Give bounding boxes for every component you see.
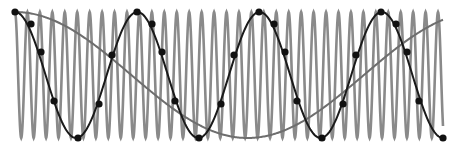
diagram-canvas xyxy=(0,0,455,151)
sample-point-dot xyxy=(318,134,325,141)
sample-point-dot xyxy=(293,97,300,104)
sample-point-dot xyxy=(108,51,115,58)
sample-point-dot xyxy=(255,8,262,15)
sample-point-dot xyxy=(217,100,224,107)
sample-point-dot xyxy=(37,48,44,55)
sample-point-dot xyxy=(439,134,446,141)
sample-point-dot xyxy=(415,97,422,104)
sample-point-dot xyxy=(377,8,384,15)
sample-point-dot xyxy=(339,100,346,107)
sample-point-dot xyxy=(50,97,57,104)
sample-point-dot xyxy=(158,48,165,55)
sample-point-dot xyxy=(352,51,359,58)
sample-point-dot xyxy=(148,20,155,27)
sample-point-dot xyxy=(27,20,34,27)
sample-point-dot xyxy=(95,100,102,107)
sample-point-dot xyxy=(230,51,237,58)
sample-point-dot xyxy=(281,48,288,55)
sample-point-dot xyxy=(171,97,178,104)
sample-point-dot xyxy=(270,20,277,27)
sample-point-dot xyxy=(74,134,81,141)
sample-point-dot xyxy=(11,8,18,15)
aliasing-diagram xyxy=(0,0,455,151)
sample-point-dot xyxy=(133,8,140,15)
sample-point-dot xyxy=(403,48,410,55)
sample-point-dot xyxy=(392,20,399,27)
sample-point-dot xyxy=(195,134,202,141)
